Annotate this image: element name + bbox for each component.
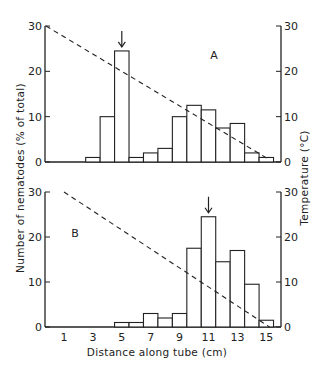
x-tick-label: 11: [202, 331, 216, 344]
panel-label: B: [71, 227, 79, 240]
histogram-bar: [187, 248, 201, 327]
x-tick-label: 3: [89, 331, 96, 344]
temperature-dashed-line: [46, 26, 270, 160]
y-tick-label: 20: [28, 231, 42, 244]
histogram-bar: [86, 157, 100, 162]
histogram-bar: [216, 128, 230, 162]
histogram-bar: [245, 284, 259, 327]
histogram-bar: [201, 110, 215, 162]
y2-tick-label: 20: [284, 231, 298, 244]
right-y-axis-label: Temperature (°C): [298, 130, 310, 226]
histogram-bar: [158, 148, 172, 162]
x-axis-label: Distance along tube (cm): [87, 346, 227, 358]
y2-tick-label: 20: [284, 65, 298, 78]
y2-tick-label: 30: [284, 20, 298, 33]
x-tick-label: 7: [147, 331, 154, 344]
histogram-bar: [230, 123, 244, 162]
panel-b: 01020300102030B: [28, 186, 298, 334]
y2-tick-label: 0: [284, 156, 291, 169]
x-tick-label: 5: [118, 331, 125, 344]
histogram-bar: [201, 217, 215, 327]
histogram-bar: [187, 105, 201, 162]
histogram-bar: [143, 153, 157, 162]
x-tick-label: 13: [230, 331, 244, 344]
histogram-bar: [129, 157, 143, 162]
y-tick-label: 30: [28, 20, 42, 33]
histogram-bar: [143, 314, 157, 328]
histogram-bar: [129, 323, 143, 328]
x-tick-label: 15: [259, 331, 273, 344]
y-tick-label: 30: [28, 186, 42, 199]
y-tick-label: 10: [28, 111, 42, 124]
histogram-bar: [100, 117, 114, 162]
panel-a: 01020300102030A: [28, 20, 298, 169]
x-tick-label: 9: [176, 331, 183, 344]
y2-tick-label: 10: [284, 276, 298, 289]
y2-tick-label: 10: [284, 111, 298, 124]
histogram-bar: [172, 117, 186, 162]
histogram-bar: [245, 153, 259, 162]
y-tick-label: 0: [35, 156, 42, 169]
y-tick-label: 0: [35, 321, 42, 334]
y-tick-label: 20: [28, 65, 42, 78]
y-tick-label: 10: [28, 276, 42, 289]
y2-tick-label: 0: [284, 321, 291, 334]
left-y-axis-label: Number of nematodes (% of total): [14, 83, 26, 273]
histogram-bar: [172, 314, 186, 328]
histogram-bar: [216, 262, 230, 327]
x-tick-label: 1: [61, 331, 68, 344]
histogram-bar: [158, 318, 172, 327]
nematode-distribution-chart: 01020300102030A 01020300102030B 13579111…: [0, 0, 325, 373]
y2-tick-label: 30: [284, 186, 298, 199]
histogram-bar: [115, 51, 129, 162]
panel-label: A: [210, 49, 218, 62]
histogram-bar: [115, 323, 129, 328]
histogram-bar: [230, 251, 244, 328]
x-axis-tick-labels: 13579111315: [61, 331, 274, 344]
